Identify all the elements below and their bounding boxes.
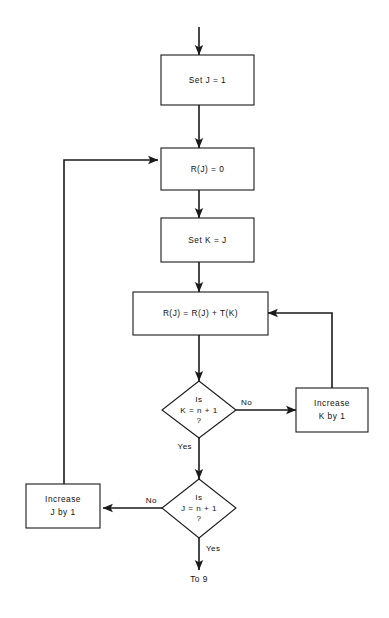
- node-accumulate-label: R(J) = R(J) + T(K): [163, 308, 238, 318]
- node-set-j-label: Set J = 1: [189, 75, 226, 85]
- edge-label-j-yes: Yes: [206, 544, 220, 553]
- node-increase-j-line2: J by 1: [50, 507, 75, 517]
- node-decision-k-line2: K = n + 1: [180, 406, 217, 415]
- edge-label-k-no: No: [241, 398, 252, 407]
- node-increase-k-box: [296, 388, 368, 432]
- node-decision-k[interactable]: Is K = n + 1 ?: [162, 381, 236, 438]
- node-accumulate[interactable]: R(J) = R(J) + T(K): [133, 292, 268, 335]
- node-decision-j[interactable]: Is J = n + 1 ?: [162, 479, 236, 538]
- node-decision-j-line1: Is: [195, 493, 202, 502]
- flowchart-canvas: Set J = 1 R(J) = 0 Set K = J R(J) = R(J)…: [0, 0, 389, 618]
- edge-label-j-no: No: [146, 496, 157, 505]
- node-increase-j[interactable]: Increase J by 1: [26, 484, 100, 528]
- node-decision-j-line2: J = n + 1: [181, 504, 217, 513]
- node-decision-k-line1: Is: [195, 395, 202, 404]
- node-set-k[interactable]: Set K = J: [161, 218, 254, 262]
- node-rj-zero[interactable]: R(J) = 0: [161, 148, 254, 190]
- node-increase-k[interactable]: Increase K by 1: [296, 388, 368, 432]
- node-increase-j-line1: Increase: [45, 494, 81, 504]
- edge-label-k-yes: Yes: [178, 442, 192, 451]
- edge-increase-k-to-accumulate: [268, 313, 332, 388]
- node-set-j[interactable]: Set J = 1: [161, 55, 254, 105]
- terminal-label: To 9: [190, 574, 208, 584]
- node-set-k-label: Set K = J: [188, 235, 226, 245]
- node-rj-zero-label: R(J) = 0: [191, 164, 225, 174]
- flowchart-svg: Set J = 1 R(J) = 0 Set K = J R(J) = R(J)…: [0, 0, 389, 618]
- node-increase-j-box: [26, 484, 100, 528]
- node-increase-k-line1: Increase: [314, 398, 350, 408]
- node-decision-j-line3: ?: [196, 514, 201, 523]
- node-decision-k-line3: ?: [196, 416, 201, 425]
- node-increase-k-line2: K by 1: [319, 411, 346, 421]
